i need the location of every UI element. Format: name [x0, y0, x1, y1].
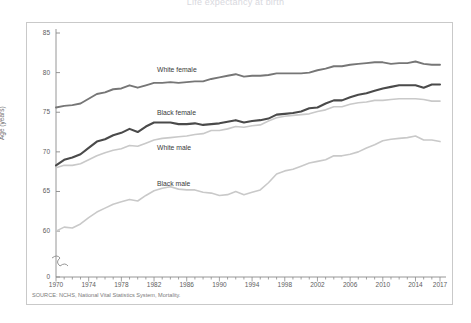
x-axis-tick-label: 1994	[237, 281, 267, 288]
x-axis-tick-label: 1982	[139, 281, 169, 288]
x-axis-tick-label: 2010	[368, 281, 398, 288]
series-label-black-male: Black male	[157, 180, 190, 187]
x-axis-tick-label: 1978	[106, 281, 136, 288]
x-axis-tick-label: 2002	[302, 281, 332, 288]
series-label-white-male: White male	[157, 144, 191, 151]
x-axis-tick-label: 1990	[204, 281, 234, 288]
x-axis-tick-label: 1970	[41, 281, 71, 288]
x-axis-tick-label: 2006	[335, 281, 365, 288]
y-axis-tick-label: 75	[30, 108, 50, 115]
series-label-white-female: White female	[157, 66, 197, 73]
source-note: SOURCE: NCHS, National Vital Statistics …	[32, 292, 180, 298]
x-axis-tick-label: 2017	[425, 281, 455, 288]
y-axis-tick-label: 80	[30, 69, 50, 76]
y-axis-label: Age (years)	[0, 60, 5, 140]
y-axis-tick-label: 0	[30, 273, 50, 280]
x-axis-tick-label: 1998	[270, 281, 300, 288]
y-axis-tick-label: 60	[30, 227, 50, 234]
chart-figure: Life expectancy at birth Age (years) 858…	[0, 0, 471, 323]
x-axis-tick-label: 1974	[74, 281, 104, 288]
y-axis-tick-label: 85	[30, 29, 50, 36]
series-label-black-female: Black female	[157, 109, 196, 116]
y-axis-tick-label: 65	[30, 187, 50, 194]
x-axis-tick-label: 1986	[172, 281, 202, 288]
y-axis-tick-label: 70	[30, 148, 50, 155]
chart-frame	[26, 22, 453, 305]
chart-title: Life expectancy at birth	[0, 0, 471, 8]
